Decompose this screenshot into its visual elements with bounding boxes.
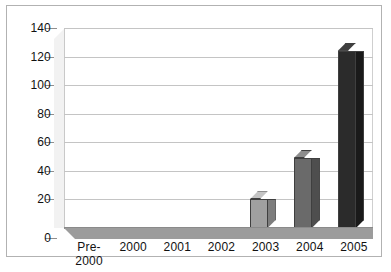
x-axis-label-line: 2004 — [288, 240, 332, 254]
plot-floor-edge — [64, 227, 373, 228]
gridline — [64, 199, 373, 200]
plot-floor — [64, 228, 373, 239]
y-axis-tick-label: 40 — [17, 164, 51, 178]
y-axis-tick-label: 0 — [17, 231, 51, 245]
gridline — [64, 114, 373, 115]
bar-side-face — [312, 158, 320, 228]
x-axis-label-2005: 2005 — [332, 240, 376, 254]
x-axis-label-line: 2003 — [244, 240, 288, 254]
bar-front-face — [338, 51, 356, 228]
x-axis-label-Pre-2000: Pre-2000 — [67, 240, 111, 268]
chart-frame: 020406080100120140 Pre-20002000200120022… — [6, 5, 382, 257]
x-axis-label-line: 2005 — [332, 240, 376, 254]
y-axis-labels: 020406080100120140 — [7, 6, 51, 258]
x-axis-labels: Pre-2000200020012002200320042005 — [64, 240, 384, 272]
x-axis-label-line: 2000 — [67, 254, 111, 268]
y-axis-tick-label: 100 — [17, 78, 51, 92]
plot-background — [64, 28, 373, 228]
x-axis-label-2001: 2001 — [155, 240, 199, 254]
x-axis-label-2004: 2004 — [288, 240, 332, 254]
gridline — [64, 171, 373, 172]
gridline — [64, 142, 373, 143]
bar-2004 — [294, 158, 312, 228]
x-axis-label-2003: 2003 — [244, 240, 288, 254]
bar-front-face — [250, 199, 268, 228]
plot-area — [64, 28, 373, 228]
gridline — [64, 28, 373, 29]
x-axis-label-line: 2000 — [111, 240, 155, 254]
y-axis-tick-label: 20 — [17, 192, 51, 206]
x-axis-label-2000: 2000 — [111, 240, 155, 254]
x-axis-label-line: 2002 — [199, 240, 243, 254]
bar-front-face — [294, 158, 312, 228]
bar-2005 — [338, 51, 356, 228]
y-axis-tick-label: 120 — [17, 50, 51, 64]
y-axis-tick-label: 140 — [17, 21, 51, 35]
x-axis-label-line: Pre- — [67, 240, 111, 254]
y-axis-tick-label: 60 — [17, 135, 51, 149]
bar-side-face — [356, 51, 364, 228]
gridline — [64, 57, 373, 58]
gridline — [64, 85, 373, 86]
x-axis-label-2002: 2002 — [199, 240, 243, 254]
bar-2003 — [250, 199, 268, 228]
y-axis-tick-label: 80 — [17, 107, 51, 121]
x-axis-label-line: 2001 — [155, 240, 199, 254]
